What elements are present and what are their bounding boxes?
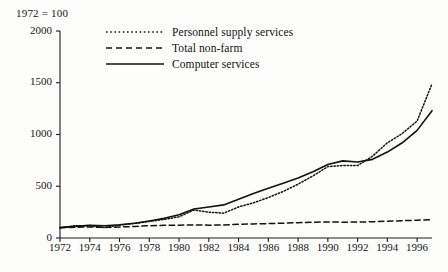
legend-label: Computer services (172, 58, 260, 70)
dashed-line-icon (106, 41, 164, 55)
legend-item: Total non-farm (106, 40, 366, 56)
legend-label: Total non-farm (172, 42, 243, 54)
legend-item: Personnel supply services (106, 24, 366, 40)
legend-label: Personnel supply services (172, 26, 293, 38)
solid-line-icon (106, 57, 164, 71)
x-axis-tick-label: 1996 (397, 241, 437, 253)
legend-item: Computer services (106, 56, 366, 72)
chart-legend: Personnel supply servicesTotal non-farmC… (106, 24, 366, 72)
dotted-line-icon (106, 25, 164, 39)
chart-figure: 1972 = 100 0500100015002000 197219741976… (0, 0, 448, 272)
